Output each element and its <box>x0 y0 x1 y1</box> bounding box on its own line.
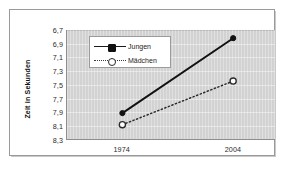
chart-figure: Zeit in Sekunden 6,76,97,17,37,57,77,98,… <box>0 0 288 174</box>
chart-outer-frame: Zeit in Sekunden 6,76,97,17,37,57,77,98,… <box>9 9 275 156</box>
y-axis-tick-label: 7,5 <box>13 82 63 89</box>
y-axis-tick-labels: 6,76,97,17,37,57,77,98,18,3 <box>10 30 63 140</box>
legend-label: Jungen <box>128 43 151 50</box>
data-point-jungen <box>231 36 236 41</box>
y-axis-tick-label: 7,3 <box>13 68 63 75</box>
y-axis-tick-label: 8,3 <box>13 137 63 144</box>
x-axis-tick-label: 1974 <box>100 145 144 154</box>
y-axis-tick-label: 7,9 <box>13 109 63 116</box>
chart-legend: JungenMädchen <box>89 36 171 68</box>
y-axis-tick-label: 7,7 <box>13 96 63 103</box>
data-point-mädchen <box>230 78 236 84</box>
y-axis-tick-label: 8,1 <box>13 123 63 130</box>
y-axis-tick-label: 6,7 <box>13 27 63 34</box>
x-axis-tick-label: 2004 <box>211 145 255 154</box>
data-point-jungen <box>120 111 125 116</box>
legend-label: Mädchen <box>128 57 157 64</box>
legend-item-jungen: Jungen <box>90 40 170 54</box>
legend-line-sample-icon <box>94 60 126 63</box>
legend-line-sample-icon <box>94 46 126 49</box>
x-axis-tick-labels: 19742004 <box>66 145 276 157</box>
legend-item-mädchen: Mädchen <box>90 54 170 68</box>
y-axis-tick-label: 7,1 <box>13 54 63 61</box>
legend-open-circle-marker-icon <box>108 58 116 66</box>
y-axis-tick-label: 6,9 <box>13 41 63 48</box>
plot-area: JungenMädchen <box>66 30 276 140</box>
legend-filled-marker-icon <box>108 44 116 52</box>
data-point-mädchen <box>119 122 125 128</box>
